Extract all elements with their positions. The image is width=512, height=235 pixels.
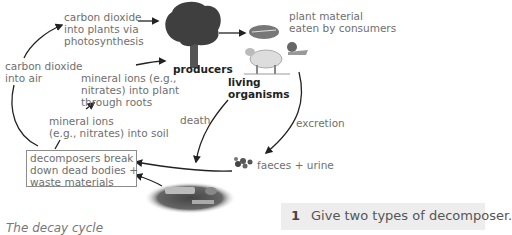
label-line: into air	[5, 72, 83, 84]
sheep-icon	[244, 48, 290, 74]
label-line: carbon dioxide	[64, 11, 144, 23]
label-line: mineral ions	[49, 115, 169, 127]
faeces-icon	[234, 157, 253, 169]
question-text: Give two types of decomposer.	[311, 208, 512, 223]
figure-caption: The decay cycle	[6, 221, 103, 235]
soil-icon	[144, 182, 236, 214]
label-line: mineral ions (e.g.,	[81, 72, 179, 84]
label-mineral-ions-soil: mineral ions (e.g., nitrates) into soil	[49, 115, 169, 139]
label-mineral-ions-plant: mineral ions (e.g., nitrates) into plant…	[81, 72, 179, 108]
bird-icon	[287, 42, 308, 55]
node-producers: producers	[173, 63, 233, 75]
label-faeces-urine: faeces + urine	[257, 159, 334, 171]
label-line: down dead bodies +	[30, 164, 133, 176]
label-line: plant material	[289, 10, 396, 22]
label-line: living	[228, 76, 290, 88]
label-line: nitrates) into plant	[81, 84, 179, 96]
label-line: decomposers break	[30, 152, 133, 164]
label-co2-into-plants: carbon dioxide into plants via photosynt…	[64, 11, 144, 47]
label-line: carbon dioxide	[5, 60, 83, 72]
tree-icon	[165, 2, 220, 68]
label-plant-material: plant material eaten by consumers	[289, 10, 396, 34]
leaf-icon	[249, 25, 279, 39]
label-line: eaten by consumers	[289, 22, 396, 34]
label-excretion: excretion	[296, 117, 345, 129]
label-death: death	[180, 114, 210, 126]
question-box: 1 Give two types of decomposer.	[281, 203, 485, 230]
label-line: (e.g., nitrates) into soil	[49, 127, 169, 139]
label-co2-into-air: carbon dioxide into air	[5, 60, 83, 84]
label-line: organisms	[228, 88, 290, 100]
question-number: 1	[291, 208, 300, 223]
label-line: waste materials	[30, 176, 133, 188]
node-living-organisms: living organisms	[228, 76, 290, 100]
label-line: through roots	[81, 96, 179, 108]
label-line: into plants via	[64, 23, 144, 35]
decomposers-box: decomposers break down dead bodies + was…	[26, 150, 137, 187]
label-line: photosynthesis	[64, 35, 144, 47]
